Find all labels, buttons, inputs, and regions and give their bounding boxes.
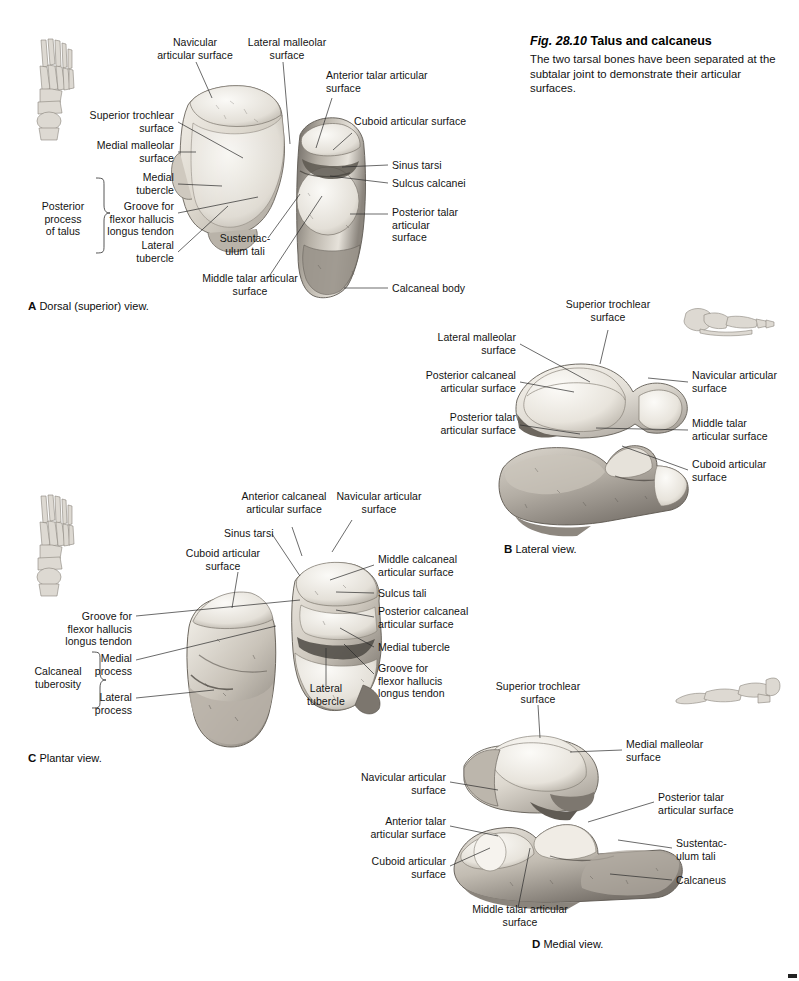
foot-skeleton-lateral-icon — [680, 303, 778, 341]
panel-c-letter: C — [28, 752, 36, 764]
label-b-cuboid-articular-surface: Cuboid articular surface — [692, 458, 796, 483]
label-c-groove-flexor-hallucis-longus-tendon-left: Groove for flexor hallucis longus tendon — [36, 610, 132, 648]
label-d-cuboid-articular-surface: Cuboid articular surface — [338, 855, 446, 880]
page-edge-mark — [788, 974, 797, 978]
label-a-middle-talar-articular-surface: Middle talar articular surface — [186, 272, 314, 297]
label-b-posterior-talar-articular-surface: Posterior talar articular surface — [404, 411, 516, 436]
figure-description: The two tarsal bones have been separated… — [530, 52, 780, 96]
label-a-superior-trochlear-surface: Superior trochlear surface — [56, 109, 174, 134]
label-a-medial-tubercle: Medial tubercle — [108, 171, 174, 196]
label-a-lateral-tubercle: Lateral tubercle — [108, 239, 174, 264]
panel-d-letter: D — [532, 938, 540, 950]
label-c-cuboid-articular-surface: Cuboid articular surface — [168, 547, 278, 572]
label-d-middle-talar-articular-surface: Middle talar articular surface — [456, 903, 584, 928]
label-d-anterior-talar-articular-surface: Anterior talar articular surface — [338, 815, 446, 840]
figure-name: Talus and calcaneus — [590, 34, 711, 48]
label-d-posterior-talar-articular-surface: Posterior talar articular surface — [658, 791, 770, 816]
panel-b-caption-text: Lateral view. — [515, 543, 576, 555]
panel-a-letter: A — [28, 300, 36, 312]
label-a-sinus-tarsi: Sinus tarsi — [392, 159, 502, 172]
panel-a-caption-text: Dorsal (superior) view. — [39, 300, 148, 312]
panel-c-caption-text: Plantar view. — [39, 752, 101, 764]
label-c-middle-calcaneal-articular-surface: Middle calcaneal articular surface — [378, 553, 494, 578]
label-d-calcaneus: Calcaneus — [676, 874, 776, 887]
label-a-anterior-talar-articular-surface: Anterior talar articular surface — [326, 69, 451, 94]
label-c-lateral-tubercle: Lateral tubercle — [294, 682, 358, 707]
label-c-groove-flexor-hallucis-longus-tendon: Groove for flexor hallucis longus tendon — [378, 662, 478, 700]
panel-b-caption: B Lateral view. — [504, 543, 577, 556]
label-c-posterior-calcaneal-articular-surface: Posterior calcaneal articular surface — [378, 605, 494, 630]
panel-a-caption: A Dorsal (superior) view. — [28, 300, 149, 313]
label-a-posterior-process-of-talus: Posterior process of talus — [32, 200, 94, 238]
label-a-sulcus-calcanei: Sulcus calcanei — [392, 177, 502, 190]
label-d-medial-malleolar-surface: Medial malleolar surface — [626, 738, 736, 763]
panel-c-caption: C Plantar view. — [28, 752, 102, 765]
foot-skeleton-plantar-icon — [27, 492, 79, 598]
label-c-calcaneal-tuberosity: Calcaneal tuberosity — [26, 665, 90, 690]
label-a-posterior-talar-articular-surface: Posterior talar articular surface — [392, 206, 492, 244]
label-a-sustentaculum-tali: Sustentac- ulum tali — [208, 232, 282, 257]
label-b-superior-trochlear-surface: Superior trochlear surface — [548, 298, 668, 323]
label-c-medial-tubercle: Medial tubercle — [378, 641, 488, 654]
panel-b-letter: B — [504, 543, 512, 555]
panel-d-caption-text: Medial view. — [543, 938, 603, 950]
label-d-navicular-articular-surface: Navicular articular surface — [338, 771, 446, 796]
label-a-medial-malleolar-surface: Medial malleolar surface — [56, 139, 174, 164]
label-b-posterior-calcaneal-articular-surface: Posterior calcaneal articular surface — [392, 369, 516, 394]
figure-number: Fig. 28.10 — [530, 34, 587, 48]
panel-d-caption: D Medial view. — [532, 938, 603, 951]
label-c-sinus-tarsi: Sinus tarsi — [224, 527, 314, 540]
label-b-middle-talar-articular-surface: Middle talar articular surface — [692, 417, 796, 442]
label-d-sustentaculum-tali: Sustentac- ulum tali — [676, 837, 776, 862]
label-a-lateral-malleolar-surface: Lateral malleolar surface — [232, 36, 342, 61]
label-a-cuboid-articular-surface: Cuboid articular surface — [354, 115, 494, 128]
label-c-lateral-process: Lateral process — [64, 691, 132, 716]
panel-b-artwork — [495, 340, 710, 540]
label-a-calcaneal-body: Calcaneal body — [392, 282, 502, 295]
label-b-navicular-articular-surface: Navicular articular surface — [692, 369, 796, 394]
label-c-navicular-articular-surface: Navicular articular surface — [322, 490, 436, 515]
figure-title: Fig. 28.10 Talus and calcaneus — [530, 34, 780, 49]
label-d-superior-trochlear-surface: Superior trochlear surface — [478, 680, 598, 705]
label-b-lateral-malleolar-surface: Lateral malleolar surface — [404, 331, 516, 356]
foot-skeleton-medial-icon — [672, 672, 782, 714]
label-c-sulcus-tali: Sulcus tali — [378, 587, 488, 600]
